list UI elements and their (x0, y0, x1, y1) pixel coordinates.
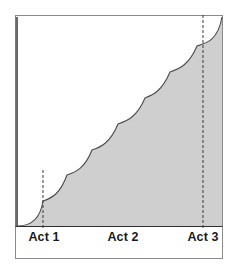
story-structure-diagram (0, 0, 237, 265)
act-3-label: Act 3 (187, 230, 218, 244)
y-axis (16, 17, 19, 226)
act-2-label: Act 2 (107, 230, 138, 244)
act-1-label: Act 1 (28, 230, 59, 244)
